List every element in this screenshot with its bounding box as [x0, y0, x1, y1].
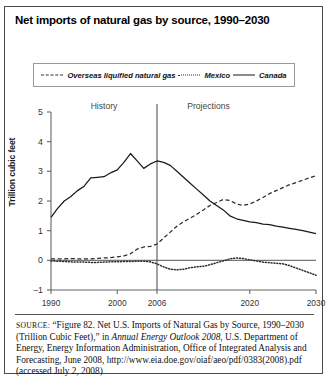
x-tick-2020: 2020: [240, 298, 259, 308]
legend-label-overseas-lng: Overseas liquified natural gas: [67, 71, 175, 80]
solid-line-icon: [233, 72, 255, 79]
x-tick-2030: 2030: [307, 298, 326, 308]
source-citation: SOURCE: “Figure 82. Net U.S. Imports of …: [16, 320, 314, 378]
x-axis-ticks: 19902000200620202030: [5, 298, 324, 312]
divider-rule: [15, 314, 314, 315]
source-label: SOURCE:: [16, 321, 50, 330]
legend-item-canada: Canada: [233, 71, 286, 80]
chart-svg: [5, 99, 324, 304]
x-tick-2000: 2000: [108, 298, 127, 308]
annot-projections: Projections: [187, 101, 230, 111]
series-line-canada: [51, 154, 316, 234]
x-tick-2006: 2006: [148, 298, 167, 308]
x-tick-1990: 1990: [42, 298, 61, 308]
chart-plot-area: Trillion cubic feet 543210−1 19902000200…: [5, 99, 324, 304]
dashed-line-icon: [41, 72, 63, 79]
figure-container: Net imports of natural gas by source, 19…: [4, 6, 323, 374]
legend-label-canada: Canada: [259, 71, 286, 80]
chart-legend: Overseas liquified natural gas Mexico Ca…: [33, 63, 295, 87]
legend-item-overseas-lng: Overseas liquified natural gas: [41, 71, 175, 80]
legend-label-mexico: Mexico: [204, 71, 230, 80]
annot-history: History: [91, 101, 118, 111]
legend-item-mexico: Mexico: [178, 71, 230, 80]
dotted-line-icon: [178, 72, 200, 79]
source-italic-title: Annual Energy Outlook 2008: [111, 332, 220, 342]
page-title: Net imports of natural gas by source, 19…: [5, 14, 270, 26]
title-bar: Net imports of natural gas by source, 19…: [5, 7, 322, 33]
series-line-overseas-liquified-natural-gas: [51, 176, 316, 259]
